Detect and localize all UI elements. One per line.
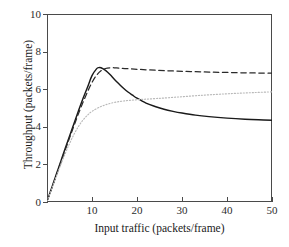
x-tick-label: 10 <box>77 205 107 216</box>
y-tick-label: 0 <box>17 197 41 208</box>
x-tick-mark <box>182 197 183 202</box>
x-tick-label: 20 <box>122 205 152 216</box>
y-tick-mark <box>43 127 48 128</box>
x-tick-label: 30 <box>167 205 197 216</box>
y-tick-mark <box>43 89 48 90</box>
y-tick-mark <box>43 202 48 203</box>
x-tick-mark <box>92 197 93 202</box>
y-tick-mark <box>43 52 48 53</box>
x-tick-mark <box>137 197 138 202</box>
plot-area <box>47 14 272 202</box>
y-tick-mark <box>43 14 48 15</box>
x-tick-label: 40 <box>212 205 242 216</box>
y-tick-mark <box>43 164 48 165</box>
x-tick-label: 50 <box>257 205 287 216</box>
x-axis-title: Input traffic (packets/frame) <box>0 222 289 235</box>
y-axis-title: Throughput (packets/frame) <box>22 15 35 195</box>
x-tick-mark <box>272 197 273 202</box>
chart-figure: 0246810 1020304050 Input traffic (packet… <box>0 0 289 247</box>
x-tick-mark <box>227 197 228 202</box>
